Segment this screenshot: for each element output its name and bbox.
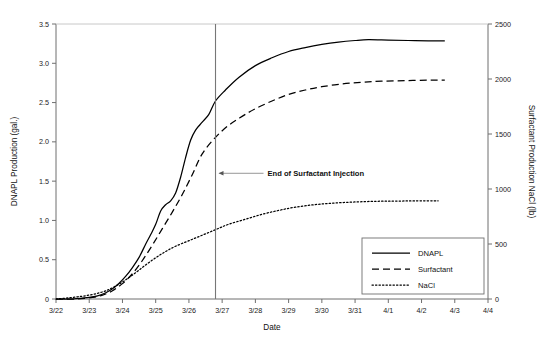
y-tick-label: 2.0: [39, 137, 49, 146]
y2-tick-label: 2500: [495, 20, 511, 29]
y-tick-label: 2.5: [39, 98, 49, 107]
x-axis-title: Date: [263, 323, 281, 332]
y2-tick-label: 1000: [495, 185, 511, 194]
x-tick-label: 3/29: [282, 306, 296, 315]
y-tick-label: 1.0: [39, 216, 49, 225]
x-tick-label: 3/23: [82, 306, 96, 315]
x-tick-label: 3/31: [348, 306, 362, 315]
y2-tick-label: 2000: [495, 75, 511, 84]
y-tick-label: 3.5: [39, 20, 49, 29]
x-tick-label: 3/22: [49, 306, 63, 315]
x-tick-label: 4/1: [383, 306, 393, 315]
legend-label-nacl: NaCl: [418, 281, 435, 290]
y-tick-label: 1.5: [39, 177, 49, 186]
x-tick-label: 3/28: [248, 306, 262, 315]
y-tick-label: 3.0: [39, 59, 49, 68]
production-line-chart: 3/223/233/243/253/263/273/283/293/303/31…: [0, 0, 542, 343]
y-tick-label: 0.5: [39, 255, 49, 264]
legend-label-surfactant: Surfactant: [418, 265, 454, 274]
x-tick-label: 4/4: [483, 306, 493, 315]
x-tick-label: 3/25: [149, 306, 163, 315]
y2-tick-label: 1500: [495, 130, 511, 139]
legend: DNAPLSurfactantNaCl: [362, 238, 484, 294]
y-tick-label: 0: [45, 295, 49, 304]
x-tick-label: 3/30: [315, 306, 329, 315]
x-tick-label: 4/3: [450, 306, 460, 315]
y-axis-right-title: Surfactant Production NaCl (lb): [527, 105, 536, 219]
legend-label-dnapl: DNAPL: [418, 249, 443, 258]
x-tick-label: 3/27: [215, 306, 229, 315]
x-tick-label: 3/24: [115, 306, 129, 315]
annotation-label: End of Surfactant Injection: [268, 169, 365, 178]
y-axis-left-title: DNAPL Production (gal.): [10, 117, 19, 207]
y2-tick-label: 500: [495, 240, 507, 249]
x-tick-label: 3/26: [182, 306, 196, 315]
x-tick-label: 4/2: [417, 306, 427, 315]
chart-container: 3/223/233/243/253/263/273/283/293/303/31…: [0, 0, 542, 343]
y2-tick-label: 0: [495, 295, 499, 304]
